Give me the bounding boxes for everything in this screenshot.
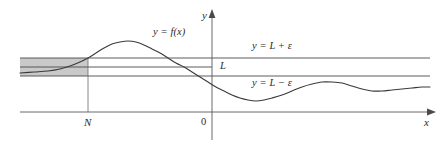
lower-bound-label: y = L − ε xyxy=(252,78,292,89)
limit-label: L xyxy=(220,61,226,72)
x-axis-arrow xyxy=(427,109,436,116)
y-axis-label: y xyxy=(202,10,207,21)
origin-label: 0 xyxy=(201,117,206,128)
upper-bound-label: y = L + ε xyxy=(252,41,292,52)
x-axis-label: x xyxy=(424,117,429,128)
function-label: y = f(x) xyxy=(153,27,185,38)
n-marker-label: N xyxy=(84,117,91,128)
diagram-canvas xyxy=(0,0,438,148)
limit-at-infinity-diagram: y = f(x) y = L + ε L y = L − ε N 0 x y xyxy=(0,0,438,148)
y-axis-arrow xyxy=(209,9,216,18)
